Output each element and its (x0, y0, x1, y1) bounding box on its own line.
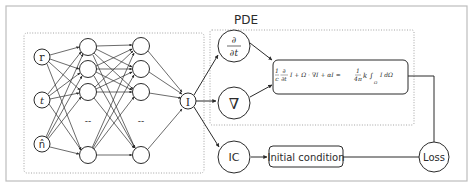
svg-text:Ω: Ω (373, 80, 378, 85)
svg-text:4π: 4π (353, 75, 363, 82)
svg-text:r: r (39, 51, 45, 64)
edges-hidden1-hidden2 (92, 45, 135, 155)
operator-time-derivative: ∂ ∂t (218, 30, 250, 62)
svg-text:∂: ∂ (282, 67, 285, 74)
input-node-n: n̂ (34, 136, 50, 152)
svg-text:I dΩ: I dΩ (379, 71, 393, 78)
svg-text:k ∫: k ∫ (363, 72, 373, 80)
output-node-I: I (180, 93, 196, 109)
edges-output-operators (194, 55, 219, 147)
loss-node: Loss (419, 142, 449, 172)
pde-equation-box: 1 c ∂ ∂t I + Ω · ∇I + αI = 1 4π k ∫ Ω I … (273, 60, 408, 94)
svg-text:I + Ω · ∇I + αI =: I + Ω · ∇I + αI = (289, 71, 341, 78)
svg-text:∂: ∂ (232, 35, 237, 45)
hidden-ellipsis: -- (138, 116, 145, 126)
edges-hidden2-output (148, 51, 182, 149)
operator-gradient: ∇ (218, 87, 250, 119)
pde-label: PDE (234, 13, 258, 27)
pinn-diagram: PDE (0, 0, 474, 189)
svg-text:1: 1 (356, 67, 360, 74)
network-box (24, 33, 204, 173)
initial-condition-box: Initial condition (267, 146, 344, 167)
input-node-t: t (34, 92, 50, 108)
svg-text:∂t: ∂t (281, 75, 287, 82)
svg-text:1: 1 (275, 67, 279, 74)
edges-input-hidden1 (46, 47, 83, 154)
svg-text:∇: ∇ (229, 95, 239, 113)
svg-text:n̂: n̂ (39, 139, 45, 150)
hidden-layer-2: -- (133, 38, 150, 164)
svg-text:I: I (186, 96, 190, 109)
svg-text:IC: IC (229, 151, 240, 164)
input-node-r: r (34, 49, 50, 65)
svg-text:∂t: ∂t (230, 48, 239, 58)
svg-text:Loss: Loss (423, 152, 445, 163)
edges-operators-equation (250, 43, 272, 157)
svg-text:Initial condition: Initial condition (267, 152, 344, 163)
operator-initial-condition: IC (218, 141, 250, 173)
hidden-ellipsis: -- (85, 116, 92, 126)
